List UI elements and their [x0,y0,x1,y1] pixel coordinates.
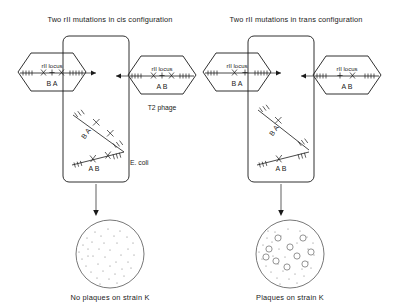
phage-cis-right: rII locus A B T2 phage [116,56,196,112]
plate-cis: No plaques on strain K [70,220,149,302]
chromosome-cis-2: A B E. coli [72,152,149,173]
alleles-cis-right: A B [157,83,168,90]
injection-arrow-cis-left [91,70,96,75]
phage-name-label-cis: T2 phage [148,104,177,112]
injection-arrow-trans-left [276,70,281,75]
plate-caption-cis: No plaques on strain K [70,293,149,302]
plate-trans: Plaques on strain K [256,220,324,302]
injection-arrow-trans-right [301,73,306,78]
flow-arrowhead-trans [278,210,284,216]
panel-title-cis: Two rII mutations in cis configuration [47,15,172,24]
locus-label-cis-left: rII locus [41,63,62,69]
injection-arrow-cis-right [116,73,121,78]
alleles-chromosome-cis-2: A B [89,165,100,172]
plate-caption-trans: Plaques on strain K [256,293,324,302]
phage-trans-right: rII locus A B [301,56,381,94]
phage-cis-left: rII locus B A [18,53,96,91]
locus-label-trans-left: rII locus [226,63,247,69]
flow-arrowhead-cis [93,210,99,216]
locus-label-trans-right: rII locus [336,66,357,72]
panel-cis: rII locus B A rII locus A B T2 pha [18,36,196,302]
alleles-trans-right: A B [342,83,353,90]
ecoli-cell-cis [63,36,129,182]
phage-trans-left: rII locus B A [203,53,281,91]
alleles-chromosome-trans-2: A B [276,165,287,172]
host-label-cis: E. coli [130,159,149,166]
alleles-chromosome-cis-1: B A [80,127,92,140]
chromosome-trans-2: A B [257,152,309,172]
plate-stipple-cis [78,228,134,284]
ecoli-cell-trans [248,36,314,182]
locus-label-cis-right: rII locus [151,66,172,72]
alleles-cis-left: B A [47,80,58,87]
chromosome-cis-1: B A [73,110,124,152]
plaques-trans [263,235,314,270]
chromosome-trans-1: B A [258,105,309,150]
figure-canvas: Two rII mutations in cis configuration T… [0,0,401,308]
panel-trans: rII locus B A rII locus A B [203,36,381,302]
panel-title-trans: Two rII mutations in trans configuration [230,15,363,24]
alleles-trans-left: B A [232,80,243,87]
